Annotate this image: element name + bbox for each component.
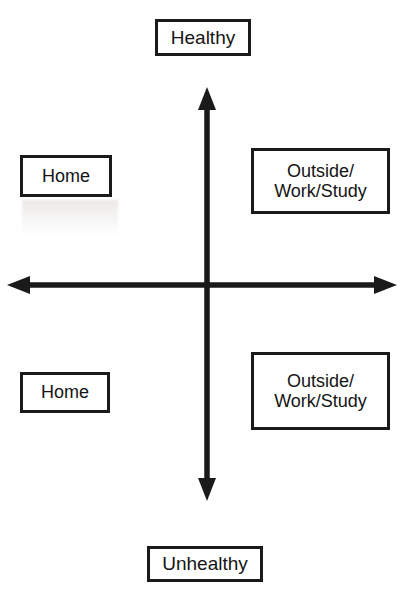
axis-label-healthy: Healthy <box>155 19 251 56</box>
axes-group <box>0 0 405 594</box>
axis-arrowhead-down <box>198 478 216 501</box>
axis-arrowhead-up <box>198 87 216 110</box>
axis-arrowhead-left <box>7 276 30 294</box>
quadrant-label-lower-right: Outside/ Work/Study <box>251 352 390 430</box>
axis-label-unhealthy: Unhealthy <box>147 546 263 582</box>
quadrant-label-upper-left: Home <box>20 155 112 197</box>
quadrant-diagram: Healthy Unhealthy Home Outside/ Work/Stu… <box>0 0 405 594</box>
axis-arrowhead-right <box>374 276 397 294</box>
quadrant-label-lower-left: Home <box>20 372 110 413</box>
quadrant-label-upper-right: Outside/ Work/Study <box>251 148 390 214</box>
